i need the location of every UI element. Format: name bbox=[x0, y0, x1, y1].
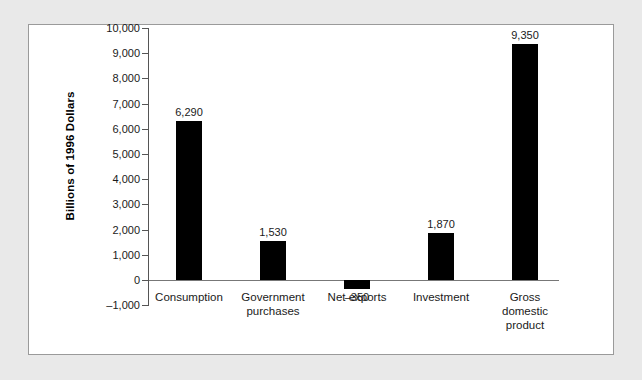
y-tick-label: 7,000 bbox=[78, 99, 140, 110]
y-tick-mark bbox=[142, 230, 149, 231]
y-tick-label-wrap: –1,000 bbox=[74, 300, 140, 311]
x-category-label-line: purchases bbox=[219, 304, 327, 318]
x-category-label: Grossdomesticproduct bbox=[471, 290, 579, 332]
y-tick-mark bbox=[142, 154, 149, 155]
y-tick-mark bbox=[142, 129, 149, 130]
y-axis-line bbox=[148, 28, 149, 305]
y-tick-label: 6,000 bbox=[78, 124, 140, 135]
y-tick-label-wrap: 2,000 bbox=[74, 225, 140, 236]
bar-value-label: 6,290 bbox=[149, 106, 229, 118]
y-tick-label-wrap: 3,000 bbox=[74, 199, 140, 210]
y-tick-label-wrap: 4,000 bbox=[74, 174, 140, 185]
y-tick-label-wrap: 7,000 bbox=[74, 99, 140, 110]
y-tick-label: 9,000 bbox=[78, 48, 140, 59]
chart-figure-card: Billions of 1996 Dollars 10,0009,0008,00… bbox=[28, 24, 614, 355]
bar-chart-plot-area: Billions of 1996 Dollars 10,0009,0008,00… bbox=[29, 25, 613, 354]
bar bbox=[344, 280, 370, 289]
y-tick-mark bbox=[142, 280, 149, 281]
bar bbox=[428, 233, 454, 280]
y-tick-label: 4,000 bbox=[78, 174, 140, 185]
y-tick-label: 8,000 bbox=[78, 73, 140, 84]
bar bbox=[260, 241, 286, 280]
y-tick-label: 3,000 bbox=[78, 199, 140, 210]
y-tick-label: 10,000 bbox=[78, 23, 140, 34]
y-tick-label-wrap: 10,000 bbox=[74, 23, 140, 34]
bar-value-label: 1,530 bbox=[233, 226, 313, 238]
y-tick-label: 5,000 bbox=[78, 149, 140, 160]
y-tick-label-wrap: 5,000 bbox=[74, 149, 140, 160]
y-tick-mark bbox=[142, 104, 149, 105]
y-tick-mark bbox=[142, 204, 149, 205]
y-tick-label-wrap: 9,000 bbox=[74, 48, 140, 59]
bar-value-label: 1,870 bbox=[401, 218, 481, 230]
y-tick-mark bbox=[142, 53, 149, 54]
bar bbox=[512, 44, 538, 280]
y-tick-mark bbox=[142, 78, 149, 79]
y-tick-mark bbox=[142, 179, 149, 180]
y-tick-mark bbox=[142, 255, 149, 256]
y-tick-label-wrap: 8,000 bbox=[74, 73, 140, 84]
bar-value-label: 9,350 bbox=[485, 29, 565, 41]
y-tick-label-wrap: 0 bbox=[74, 275, 140, 286]
x-category-label-line: product bbox=[471, 318, 579, 332]
y-tick-label: 1,000 bbox=[78, 250, 140, 261]
x-category-label-line: domestic bbox=[471, 304, 579, 318]
bar bbox=[176, 121, 202, 280]
y-tick-label-wrap: 6,000 bbox=[74, 124, 140, 135]
y-tick-label-wrap: 1,000 bbox=[74, 250, 140, 261]
y-tick-mark bbox=[142, 28, 149, 29]
y-tick-label: 2,000 bbox=[78, 225, 140, 236]
y-tick-label: –1,000 bbox=[78, 300, 140, 311]
y-tick-label: 0 bbox=[78, 275, 140, 286]
y-tick-mark bbox=[142, 305, 149, 306]
x-category-label-line: Gross bbox=[471, 290, 579, 304]
